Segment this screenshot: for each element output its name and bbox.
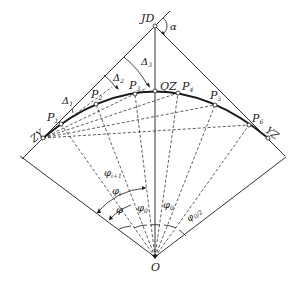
radius-O-ZY (20, 156, 155, 257)
phi0-left-arc (134, 225, 147, 228)
phi-i1-arrow-right-icon (142, 186, 146, 190)
radius-O-YZ (155, 157, 286, 257)
radius-O-P2 (96, 104, 155, 257)
phi-i-arrow-icon (109, 215, 113, 220)
center-O-dot-icon (152, 255, 158, 259)
label-phi0-right: φ0 (163, 199, 174, 211)
label-delta2: Δ2 (112, 72, 124, 84)
label-phi-i-plus-1: φi+1 (104, 167, 122, 179)
label-P1: P1 (46, 111, 58, 124)
label-P2: P2 (90, 88, 102, 101)
radius-O-P6 (155, 125, 249, 257)
label-delta3: Δ3 (140, 56, 152, 68)
radius-O-P4 (155, 93, 178, 257)
label-phi: φ (116, 204, 123, 215)
label-QZ: QZ (160, 80, 177, 93)
phi-arc (119, 226, 131, 229)
label-phi-i: φi (112, 185, 121, 197)
label-delta1: Δ1 (61, 95, 73, 107)
tangent-extension (155, 11, 170, 26)
point-QZ-marker (153, 89, 157, 93)
chord-ZY-P5 (43, 105, 215, 138)
point-P3-marker (133, 92, 137, 96)
point-P1-marker (59, 122, 63, 126)
phi0-right-arc (164, 225, 176, 228)
point-P5-marker (213, 103, 217, 107)
radius-O-P1 (61, 124, 155, 257)
delta1-arc (72, 109, 73, 113)
label-O: O (151, 261, 160, 274)
radius-O-P3 (135, 94, 155, 257)
label-ZY: ZY (27, 127, 46, 145)
label-P6: P6 (251, 112, 263, 125)
label-phi0-over-2: φ0/2 (184, 205, 203, 224)
point-P6-marker (247, 123, 251, 127)
label-JD: JD (139, 12, 154, 25)
curve-layout-diagram: JD α ZY YZ QZ O P1 P2 P3 P4 P5 P6 Δ1 Δ2 … (0, 0, 295, 283)
point-P2-marker (94, 102, 98, 106)
alpha-arc (163, 18, 167, 34)
label-P3: P3 (128, 79, 140, 92)
label-P4: P4 (181, 80, 193, 93)
phi0over2-arc (179, 230, 186, 236)
label-phi0-left: φ0 (137, 202, 148, 214)
chord-ZY-P6 (43, 125, 249, 138)
label-alpha: α (170, 21, 177, 32)
